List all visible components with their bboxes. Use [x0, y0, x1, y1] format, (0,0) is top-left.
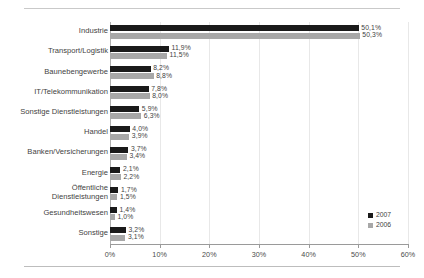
- top-divider: [24, 8, 400, 9]
- value-label: 50,3%: [362, 32, 382, 39]
- bar-row: Banken/Versicherungen3,7%3,4%: [110, 143, 408, 163]
- value-label: 6,3%: [144, 113, 160, 120]
- bar-2006: [110, 154, 127, 160]
- x-tick-10: [160, 244, 161, 248]
- bar-2006: [110, 214, 115, 220]
- x-tick-50: [358, 244, 359, 248]
- value-label: 8,0%: [152, 93, 168, 100]
- x-tick-label: 0%: [105, 250, 116, 259]
- x-tick-20: [209, 244, 210, 248]
- bar-2006: [110, 174, 121, 180]
- bar-row: Industrie50,1%50,3%: [110, 22, 408, 42]
- bar-row: Sonstige3,2%3,1%: [110, 224, 408, 244]
- bar-2007: [110, 86, 149, 92]
- bar-row: Gesundheitswesen1,4%1,0%: [110, 204, 408, 224]
- category-label: Transport/Logistik: [0, 47, 108, 56]
- bar-2006: [110, 53, 167, 59]
- value-label: 1,5%: [120, 194, 136, 201]
- plot-area: Industrie50,1%50,3%Transport/Logistik11,…: [110, 22, 408, 244]
- bar-2007: [110, 126, 130, 132]
- bar-2007: [110, 25, 359, 31]
- value-label: 11,5%: [170, 52, 189, 59]
- x-tick-label: 50%: [351, 250, 366, 259]
- bar-2006: [110, 134, 129, 140]
- category-label: IT/Telekommunikation: [0, 88, 108, 97]
- bar-2007: [110, 207, 117, 213]
- legend-label: 2006: [376, 220, 391, 230]
- bar-2007: [110, 46, 169, 52]
- bar-2007: [110, 66, 151, 72]
- x-tick-label: 30%: [252, 250, 267, 259]
- category-label: Energie: [0, 169, 108, 178]
- legend-swatch-icon: [368, 213, 373, 218]
- x-tick-40: [309, 244, 310, 248]
- legend-swatch-icon: [368, 223, 373, 228]
- chart-legend: 20072006: [368, 210, 391, 230]
- bar-2007: [110, 106, 139, 112]
- legend-label: 2007: [376, 210, 391, 220]
- value-label: 3,9%: [132, 133, 148, 140]
- value-label: 8,8%: [156, 73, 172, 80]
- bar-2006: [110, 33, 360, 39]
- value-label: 1,0%: [117, 214, 133, 221]
- bottom-divider: [24, 266, 400, 267]
- category-label: Handel: [0, 128, 108, 137]
- x-tick-label: 40%: [301, 250, 316, 259]
- value-label: 3,1%: [128, 234, 144, 241]
- bar-row: Transport/Logistik11,9%11,5%: [110, 42, 408, 62]
- gridline-60: [408, 22, 409, 244]
- bar-2007: [110, 167, 120, 173]
- category-label: Gesundheitswesen: [0, 209, 108, 218]
- x-tick-0: [110, 244, 111, 248]
- legend-item-2006: 2006: [368, 220, 391, 230]
- bar-row: Öffentliche Dienstleistungen1,7%1,5%: [110, 183, 408, 203]
- legend-item-2007: 2007: [368, 210, 391, 220]
- x-tick-label: 20%: [202, 250, 217, 259]
- x-tick-30: [259, 244, 260, 248]
- bar-row: Sonstige Dienstleistungen5,9%6,3%: [110, 103, 408, 123]
- x-tick-label: 10%: [152, 250, 167, 259]
- category-label: Banken/Versicherungen: [0, 148, 108, 157]
- bar-2007: [110, 147, 128, 153]
- category-label: Sonstige: [0, 229, 108, 238]
- chart-figure: Industrie50,1%50,3%Transport/Logistik11,…: [0, 0, 424, 278]
- x-tick-60: [408, 244, 409, 248]
- value-label: 2,2%: [123, 174, 139, 181]
- bar-2006: [110, 113, 141, 119]
- bar-row: Baunebengewerbe8,2%8,8%: [110, 62, 408, 82]
- bar-2007: [110, 187, 118, 193]
- category-label: Sonstige Dienstleistungen: [0, 108, 108, 117]
- category-label: Industrie: [0, 27, 108, 36]
- bar-2006: [110, 73, 154, 79]
- category-label: Baunebengewerbe: [0, 68, 108, 77]
- bar-2006: [110, 235, 125, 241]
- bar-2007: [110, 227, 126, 233]
- bar-row: IT/Telekommunikation7,8%8,0%: [110, 83, 408, 103]
- bar-2006: [110, 93, 150, 99]
- category-label: Öffentliche Dienstleistungen: [0, 184, 108, 201]
- bar-2006: [110, 194, 117, 200]
- x-tick-label: 60%: [401, 250, 416, 259]
- bar-row: Energie2,1%2,2%: [110, 163, 408, 183]
- value-label: 3,4%: [129, 153, 145, 160]
- bar-row: Handel4,0%3,9%: [110, 123, 408, 143]
